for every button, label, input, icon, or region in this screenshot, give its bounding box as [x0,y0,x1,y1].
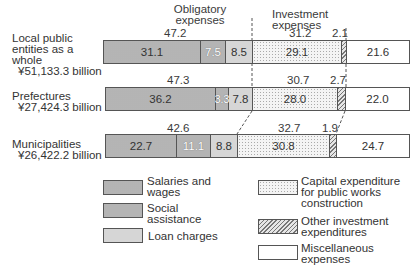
seg-loan: 7.8 [229,88,253,110]
bar-municipalities: 22.7 11.1 8.8 30.8 24.7 [105,134,410,158]
seg-capital: 28.0 [253,88,338,110]
seg-misc: 24.7 [337,135,409,157]
legend-swatch-capital [258,180,298,195]
investment-total: 31.2 [289,28,311,39]
legend-label-other-investment: Other investmentexpenditures [301,216,389,238]
row-label-local-public: Local public entities as a whole ¥51,133… [12,33,102,77]
seg-loan: 8.5 [226,41,253,63]
seg-capital: 30.8 [238,135,330,157]
seg-other-investment [338,88,346,110]
legend-label-salaries: Salaries andwages [147,176,211,198]
investment-total: 30.7 [287,75,309,86]
seg-social: 3.3 [216,88,229,110]
seg-misc: 22.0 [346,88,409,110]
seg-other-investment [330,135,337,157]
investment-total: 32.7 [278,123,300,134]
other-investment-value: 2.1 [332,28,348,39]
row-label-municipalities: Municipalities ¥26,422.2 billion [12,139,102,161]
seg-social: 7.5 [201,41,226,63]
seg-salaries: 31.1 [104,41,201,63]
legend-label-capital: Capital expenditurefor public worksconst… [301,176,400,209]
obligatory-total: 47.3 [167,75,189,86]
legend-swatch-salaries [103,180,143,195]
seg-salaries: 22.7 [106,135,177,157]
seg-misc: 21.6 [347,41,409,63]
legend-swatch-loan [103,228,143,243]
seg-salaries: 36.2 [106,88,216,110]
seg-social: 11.1 [177,135,211,157]
legend-label-loan: Loan charges [148,231,218,242]
obligatory-total: 42.6 [167,123,189,134]
other-investment-value: 2.7 [330,75,346,86]
legend-swatch-misc [258,245,298,260]
seg-capital: 29.1 [253,41,342,63]
other-investment-value: 1.9 [322,123,338,134]
seg-loan: 8.8 [211,135,238,157]
row-label-prefectures: Prefectures ¥27,424.3 billion [12,91,102,113]
legend-label-social: Socialassistance [147,203,201,225]
legend-label-misc: Miscellaneousexpenses [301,243,374,265]
bar-local-public: 31.1 7.5 8.5 29.1 21.6 [103,40,410,64]
legend-swatch-social [103,203,143,218]
legend-swatch-other-investment [258,219,298,234]
obligatory-total: 47.2 [164,28,186,39]
bar-prefectures: 36.2 3.3 7.8 28.0 22.0 [105,87,410,111]
